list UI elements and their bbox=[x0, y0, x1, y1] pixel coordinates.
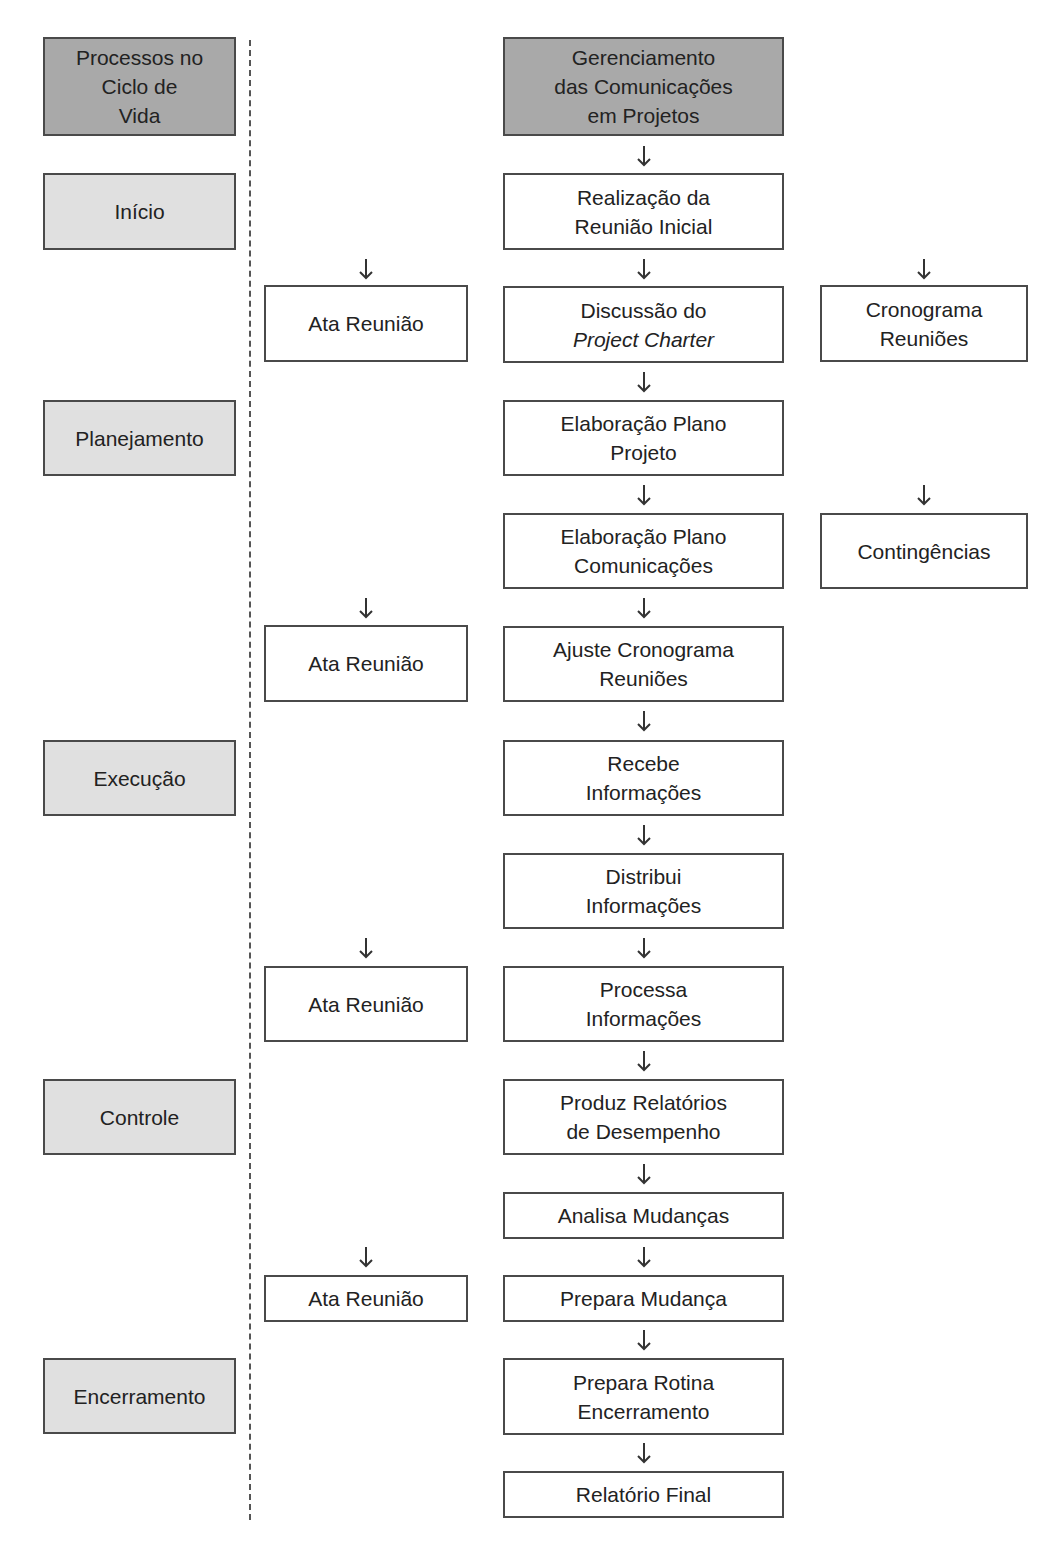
main-header-line: Gerenciamento bbox=[572, 43, 716, 72]
step-prepara-rotina-encerramento: Prepara Rotina Encerramento bbox=[503, 1358, 784, 1435]
phase-execucao: Execução bbox=[43, 740, 236, 816]
output-line: Cronograma bbox=[866, 295, 983, 324]
step-line: Processa bbox=[600, 975, 688, 1004]
step-discussao-project-charter: Discussão do Project Charter bbox=[503, 286, 784, 363]
step-line: Comunicações bbox=[574, 551, 713, 580]
phase-label: Controle bbox=[100, 1103, 179, 1132]
output-ata-reuniao-4: Ata Reunião bbox=[264, 1275, 468, 1322]
step-elaboracao-plano-comunicacoes: Elaboração Plano Comunicações bbox=[503, 513, 784, 589]
main-header: Gerenciamento das Comunicações em Projet… bbox=[503, 37, 784, 136]
output-label: Ata Reunião bbox=[308, 309, 424, 338]
step-line: Recebe bbox=[607, 749, 679, 778]
phase-planejamento: Planejamento bbox=[43, 400, 236, 476]
phase-controle: Controle bbox=[43, 1079, 236, 1155]
output-ata-reuniao-3: Ata Reunião bbox=[264, 966, 468, 1042]
step-line: Prepara Rotina bbox=[573, 1368, 714, 1397]
output-ata-reuniao-1: Ata Reunião bbox=[264, 285, 468, 362]
step-processa-informacoes: Processa Informações bbox=[503, 966, 784, 1042]
down-arrow-icon bbox=[354, 936, 378, 960]
output-ata-reuniao-2: Ata Reunião bbox=[264, 625, 468, 702]
down-arrow-icon bbox=[354, 1245, 378, 1269]
step-relatorio-final: Relatório Final bbox=[503, 1471, 784, 1518]
step-line: de Desempenho bbox=[566, 1117, 720, 1146]
step-realizacao-reuniao-inicial: Realização da Reunião Inicial bbox=[503, 173, 784, 250]
down-arrow-icon bbox=[632, 1441, 656, 1465]
step-ajuste-cronograma-reunioes: Ajuste Cronograma Reuniões bbox=[503, 626, 784, 702]
step-prepara-mudanca: Prepara Mudança bbox=[503, 1275, 784, 1322]
down-arrow-icon bbox=[912, 257, 936, 281]
output-contingencias: Contingências bbox=[820, 513, 1028, 589]
down-arrow-icon bbox=[632, 1162, 656, 1186]
down-arrow-icon bbox=[632, 823, 656, 847]
step-line: Elaboração Plano bbox=[561, 409, 727, 438]
step-line: Prepara Mudança bbox=[560, 1284, 727, 1313]
down-arrow-icon bbox=[632, 1328, 656, 1352]
phase-label: Encerramento bbox=[74, 1382, 206, 1411]
step-line: Discussão do bbox=[580, 296, 706, 325]
output-line: Reuniões bbox=[880, 324, 969, 353]
down-arrow-icon bbox=[632, 257, 656, 281]
down-arrow-icon bbox=[632, 144, 656, 168]
down-arrow-icon bbox=[912, 483, 936, 507]
lifecycle-header: Processos no Ciclo de Vida bbox=[43, 37, 236, 136]
lifecycle-header-line: Vida bbox=[119, 101, 161, 130]
down-arrow-icon bbox=[632, 709, 656, 733]
step-line: Informações bbox=[586, 1004, 702, 1033]
main-header-line: das Comunicações bbox=[554, 72, 733, 101]
down-arrow-icon bbox=[354, 596, 378, 620]
step-line: Reuniões bbox=[599, 664, 688, 693]
step-line-italic: Project Charter bbox=[573, 325, 714, 354]
down-arrow-icon bbox=[632, 1049, 656, 1073]
down-arrow-icon bbox=[354, 257, 378, 281]
step-line: Produz Relatórios bbox=[560, 1088, 727, 1117]
main-header-line: em Projetos bbox=[587, 101, 699, 130]
output-cronograma-reunioes: Cronograma Reuniões bbox=[820, 285, 1028, 362]
step-line: Informações bbox=[586, 891, 702, 920]
step-line: Reunião Inicial bbox=[575, 212, 713, 241]
step-distribui-informacoes: Distribui Informações bbox=[503, 853, 784, 929]
step-line: Ajuste Cronograma bbox=[553, 635, 734, 664]
phase-label: Execução bbox=[93, 764, 185, 793]
phase-encerramento: Encerramento bbox=[43, 1358, 236, 1434]
down-arrow-icon bbox=[632, 370, 656, 394]
phase-inicio: Início bbox=[43, 173, 236, 250]
step-line: Encerramento bbox=[578, 1397, 710, 1426]
step-analisa-mudancas: Analisa Mudanças bbox=[503, 1192, 784, 1239]
step-line: Distribui bbox=[606, 862, 682, 891]
step-elaboracao-plano-projeto: Elaboração Plano Projeto bbox=[503, 400, 784, 476]
phase-label: Planejamento bbox=[75, 424, 203, 453]
output-label: Ata Reunião bbox=[308, 1284, 424, 1313]
output-label: Contingências bbox=[857, 537, 990, 566]
output-label: Ata Reunião bbox=[308, 649, 424, 678]
step-line: Informações bbox=[586, 778, 702, 807]
step-line: Elaboração Plano bbox=[561, 522, 727, 551]
lifecycle-header-line: Processos no bbox=[76, 43, 203, 72]
step-recebe-informacoes: Recebe Informações bbox=[503, 740, 784, 816]
step-produz-relatorios-desempenho: Produz Relatórios de Desempenho bbox=[503, 1079, 784, 1155]
output-label: Ata Reunião bbox=[308, 990, 424, 1019]
down-arrow-icon bbox=[632, 483, 656, 507]
lifecycle-divider bbox=[249, 40, 251, 1520]
step-line: Analisa Mudanças bbox=[558, 1201, 730, 1230]
step-line: Relatório Final bbox=[576, 1480, 711, 1509]
phase-label: Início bbox=[114, 197, 164, 226]
down-arrow-icon bbox=[632, 1245, 656, 1269]
down-arrow-icon bbox=[632, 596, 656, 620]
down-arrow-icon bbox=[632, 936, 656, 960]
lifecycle-header-line: Ciclo de bbox=[102, 72, 178, 101]
step-line: Realização da bbox=[577, 183, 710, 212]
step-line: Projeto bbox=[610, 438, 677, 467]
